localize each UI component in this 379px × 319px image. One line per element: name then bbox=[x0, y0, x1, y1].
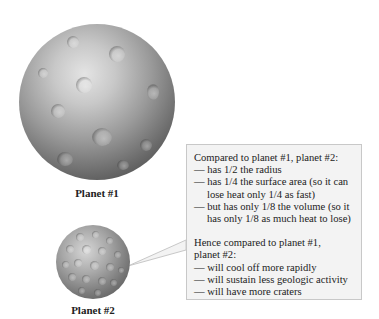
crater bbox=[147, 84, 159, 100]
planet-2-sphere bbox=[56, 225, 130, 299]
crater bbox=[38, 68, 48, 78]
conclusion-geology: — will sustain less geologic activity bbox=[194, 274, 355, 286]
planet-1-label: Planet #1 bbox=[62, 187, 132, 199]
crater bbox=[67, 36, 79, 48]
crater bbox=[78, 287, 85, 294]
conclusion-craters: — will have more craters bbox=[194, 286, 355, 298]
conclusion-heading-cont: planet #2: bbox=[194, 249, 355, 261]
crater bbox=[76, 233, 84, 241]
crater bbox=[57, 152, 73, 166]
fact-surface-area: — has 1/4 the surface area (so it can bbox=[194, 176, 355, 188]
crater bbox=[66, 245, 74, 253]
crater bbox=[140, 139, 152, 151]
crater bbox=[94, 289, 101, 296]
crater bbox=[110, 279, 117, 286]
crater bbox=[82, 245, 91, 254]
comparison-callout-box: Compared to planet #1, planet #2: — has … bbox=[186, 144, 362, 300]
crater bbox=[51, 104, 65, 118]
crater bbox=[90, 261, 99, 270]
callout-heading: Compared to planet #1, planet #2: bbox=[194, 152, 355, 164]
crater bbox=[106, 237, 113, 244]
crater bbox=[68, 273, 76, 281]
fact-surface-area-cont: lose heat only 1/4 as fast) bbox=[194, 189, 355, 201]
crater bbox=[106, 263, 114, 271]
conclusion-cooling: — will cool off more rapidly bbox=[194, 262, 355, 274]
planet-1-sphere bbox=[19, 24, 175, 180]
crater bbox=[118, 267, 124, 273]
fact-radius: — has 1/2 the radius bbox=[194, 164, 355, 176]
crater bbox=[92, 231, 99, 238]
fact-volume-cont: has only 1/8 as much heat to lose) bbox=[194, 213, 355, 225]
fact-volume: — but has only 1/8 the volume (so it bbox=[194, 201, 355, 213]
crater bbox=[109, 46, 125, 62]
crater bbox=[82, 275, 90, 283]
spacer bbox=[194, 225, 355, 237]
crater bbox=[98, 247, 106, 255]
crater bbox=[98, 277, 106, 285]
crater bbox=[114, 251, 121, 258]
planet-2-label: Planet #2 bbox=[58, 304, 128, 316]
crater bbox=[92, 128, 112, 146]
crater bbox=[62, 261, 69, 268]
crater bbox=[74, 259, 82, 267]
conclusion-heading: Hence compared to planet #1, bbox=[194, 237, 355, 249]
crater bbox=[117, 160, 129, 170]
crater bbox=[76, 77, 92, 93]
